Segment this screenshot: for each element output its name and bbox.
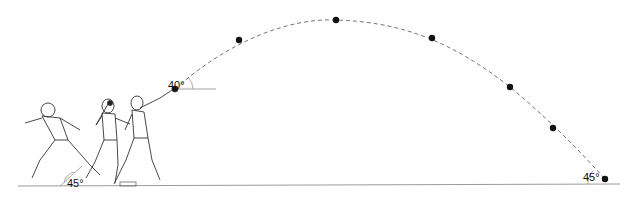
athlete-figure-2 [86,99,130,183]
ground-line [18,184,620,186]
trajectory-dot [236,37,242,43]
shot-put-diagram [0,0,638,197]
trajectory-path [175,20,605,179]
trajectory-dot [507,84,513,90]
foot-angle-label: 45° [67,178,84,189]
trajectory-dot [333,17,339,23]
release-angle-label: 40° [168,80,185,91]
trajectory-dot [550,125,556,131]
athlete-figure-3 [114,86,178,184]
release-angle-arc [188,77,193,89]
landing-angle-label: 45° [583,172,600,183]
athlete-figure-1 [25,103,100,178]
shot-landing-dot [602,176,608,182]
trajectory-dot [429,35,435,41]
